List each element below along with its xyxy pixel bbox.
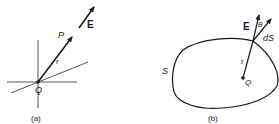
angle-label: θ xyxy=(258,20,263,29)
closed-surface-outline xyxy=(173,38,278,108)
charge-label: Q xyxy=(245,78,251,87)
panel-a: E P r Q (a) xyxy=(7,7,94,123)
panel-b: E θ dS r Q S (b) xyxy=(162,15,278,123)
point-label: P xyxy=(58,30,64,40)
field-label: E xyxy=(87,19,94,30)
area-element-label: dS xyxy=(263,33,274,43)
radius-line xyxy=(243,41,253,78)
charge-label: Q xyxy=(35,85,42,95)
field-label: E xyxy=(243,21,250,32)
surface-label: S xyxy=(162,66,168,76)
diagram-canvas: E P r Q (a) E θ dS r Q S (b) xyxy=(0,0,279,124)
charge-point-dot xyxy=(36,80,40,84)
panel-b-caption: (b) xyxy=(208,114,218,123)
radius-label: r xyxy=(241,57,244,66)
radius-label: r xyxy=(56,57,59,66)
panel-a-caption: (a) xyxy=(31,114,41,123)
